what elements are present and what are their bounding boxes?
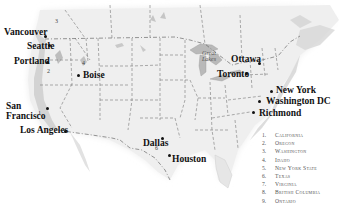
legend-item: 2.Oregon (262, 139, 320, 147)
legend-item: 3.Washington (262, 147, 320, 155)
legend-item: 6.Texas (262, 172, 320, 180)
city-dot-boise (77, 74, 80, 77)
city-label-dallas: Dallas (143, 138, 168, 148)
region-number-4: 4 (82, 60, 85, 66)
legend-item: 1.California (262, 131, 320, 139)
region-number-2: 2 (47, 68, 50, 74)
city-dot-richmond (252, 111, 255, 114)
city-label-washington-dc: Washington DC (266, 96, 331, 106)
city-dot-san-francisco (46, 107, 49, 110)
city-label-portland: Portland (14, 56, 50, 66)
legend-item: 9.Ontario (262, 197, 320, 205)
city-label-los-angeles: Los Angeles (20, 125, 68, 135)
great-lakes-label: GreatLakes (198, 50, 220, 62)
legend-item: 8.British Columbia (262, 188, 320, 196)
legend-item: 5.New York State (262, 164, 320, 172)
map-legend: 1.California 2.Oregon 3.Washington 4.Ida… (262, 131, 320, 205)
city-label-new-york: New York (276, 85, 316, 95)
city-label-ottawa: Ottawa (231, 54, 261, 64)
city-dot-washington-dc (258, 100, 261, 103)
city-dot-houston (168, 154, 171, 157)
legend-item: 4.Idaho (262, 156, 320, 164)
city-label-boise: Boise (83, 70, 105, 80)
city-label-san-francisco: San Francisco (6, 101, 46, 121)
city-label-toronto: Toronto (217, 69, 249, 79)
region-number-3: 3 (55, 18, 58, 24)
city-label-richmond: Richmond (259, 108, 301, 118)
city-label-seattle: Seattle (27, 41, 54, 51)
city-dot-new-york (270, 90, 273, 93)
legend-item: 7.Virginia (262, 180, 320, 188)
city-label-houston: Houston (172, 154, 206, 164)
city-label-vancouver: Vancouver (4, 27, 47, 37)
